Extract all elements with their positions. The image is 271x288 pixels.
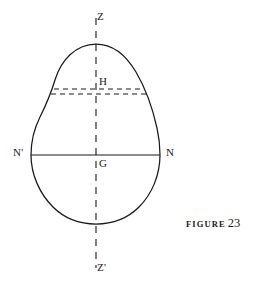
point-label-n: N xyxy=(166,147,174,158)
figure-caption-word: FIGURE xyxy=(186,219,226,229)
axis-label-z-prime: Z' xyxy=(97,262,106,273)
point-label-g: G xyxy=(99,158,107,169)
figure-caption: FIGURE23 xyxy=(186,213,240,231)
egg-diagram xyxy=(0,0,271,288)
point-label-n-prime: N' xyxy=(13,147,23,158)
point-label-h: H xyxy=(99,76,107,87)
axis-label-z: Z xyxy=(97,11,104,22)
figure-container: Z H G N' N Z' FIGURE23 xyxy=(0,0,271,288)
figure-caption-number: 23 xyxy=(228,216,241,230)
